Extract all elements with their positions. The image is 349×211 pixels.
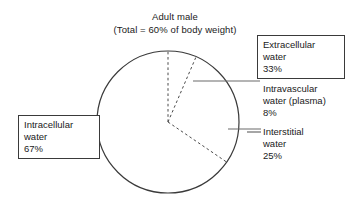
intravascular-name-line-1: Intravascular	[263, 83, 349, 95]
intracellular-name-line-1: Intracellular	[24, 119, 94, 131]
figure-title: Adult male (Total = 60% of body weight)	[84, 10, 266, 36]
callout-label-interstitial: Interstitial water 25%	[263, 126, 349, 163]
callout-label-intravascular: Intravascular water (plasma) 8%	[263, 83, 349, 120]
intravascular-percent: 8%	[263, 107, 349, 119]
interstitial-name-line-1: Interstitial	[263, 126, 349, 138]
intravascular-name-line-2: water (plasma)	[263, 95, 349, 107]
callout-box-extracellular: Extracellular water 33%	[257, 35, 345, 79]
figure-title-line-1: Adult male	[84, 10, 266, 23]
slice-divider-intravascular	[168, 57, 196, 122]
callout-box-intracellular: Intracellular water 67%	[18, 115, 100, 159]
intracellular-name-line-2: water	[24, 131, 94, 143]
extracellular-percent: 33%	[263, 63, 339, 75]
extracellular-name-line-2: water	[263, 51, 339, 63]
interstitial-percent: 25%	[263, 150, 349, 162]
extracellular-name-line-1: Extracellular	[263, 39, 339, 51]
figure-title-line-2: (Total = 60% of body weight)	[84, 23, 266, 36]
interstitial-name-line-2: water	[263, 138, 349, 150]
body-water-compartments-figure: Adult male (Total = 60% of body weight) …	[0, 0, 349, 211]
intracellular-percent: 67%	[24, 143, 94, 155]
slice-divider-interstitial	[168, 122, 228, 163]
